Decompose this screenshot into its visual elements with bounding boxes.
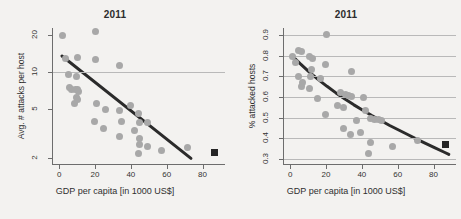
y-tick-label: 0.7	[261, 64, 270, 88]
scatter-point	[348, 93, 355, 100]
y-tick-mark	[279, 76, 283, 77]
x-tick-label: 60	[155, 170, 179, 179]
scatter-point	[184, 144, 191, 151]
x-tick-label: 60	[386, 170, 410, 179]
highlight-square-marker	[211, 149, 218, 156]
scatter-point	[323, 31, 330, 38]
panel-right-y-axis-label: % attacked hosts	[247, 64, 257, 129]
scatter-point	[322, 111, 329, 118]
x-tick-label: 40	[350, 170, 374, 179]
scatter-point	[314, 95, 321, 102]
x-tick-mark	[59, 165, 60, 169]
x-tick-mark	[398, 165, 399, 169]
y-tick-label: 20	[30, 23, 39, 47]
y-tick-label: 0.5	[261, 105, 270, 129]
scatter-point	[116, 107, 123, 114]
x-tick-mark	[362, 165, 363, 169]
y-tick-mark	[279, 138, 283, 139]
x-tick-mark	[167, 165, 168, 169]
y-tick-mark	[48, 109, 52, 110]
y-tick-label: 0.3	[261, 146, 270, 170]
scatter-point	[144, 143, 151, 150]
scatter-point	[348, 68, 355, 75]
gridline-horizontal	[284, 35, 456, 36]
y-tick-mark	[48, 35, 52, 36]
scatter-point	[292, 59, 299, 66]
scatter-point	[100, 125, 107, 132]
scatter-point	[71, 100, 78, 107]
chart-panel-right: 2011 % attacked hosts GDP per capita [in…	[231, 0, 461, 219]
x-tick-mark	[203, 165, 204, 169]
y-tick-label: 10	[30, 60, 39, 84]
panel-left-x-axis-label: GDP per capita [in 1000 US$]	[0, 186, 230, 196]
scatter-point	[322, 61, 329, 68]
y-tick-label: 0.8	[261, 43, 270, 67]
x-tick-label: 0	[47, 170, 71, 179]
gridline-horizontal	[284, 97, 456, 98]
panel-left-title: 2011	[0, 9, 230, 20]
scatter-point	[308, 66, 315, 73]
scatter-point	[116, 133, 123, 140]
scatter-point	[307, 73, 314, 80]
panel-left-y-axis-label: Avg. # attacks per host	[16, 53, 26, 139]
scatter-point	[362, 107, 369, 114]
x-tick-label: 80	[422, 170, 446, 179]
scatter-point	[62, 55, 69, 62]
scatter-point	[365, 150, 372, 157]
scatter-point	[136, 119, 143, 126]
gridline-horizontal	[284, 159, 456, 160]
x-tick-label: 20	[314, 170, 338, 179]
scatter-point	[93, 100, 100, 107]
scatter-point	[347, 131, 354, 138]
y-tick-mark	[279, 97, 283, 98]
scatter-point	[357, 129, 364, 136]
highlight-square-marker	[442, 141, 449, 148]
y-tick-label: 5	[30, 97, 39, 121]
scatter-point	[306, 85, 313, 92]
scatter-point	[135, 110, 142, 117]
scatter-point	[116, 62, 123, 69]
scatter-point	[131, 127, 138, 134]
panel-right-x-axis-label: GDP per capita [in 1000 US$]	[231, 186, 461, 196]
y-tick-mark	[279, 35, 283, 36]
scatter-point	[298, 83, 305, 90]
x-tick-mark	[131, 165, 132, 169]
x-tick-label: 40	[119, 170, 143, 179]
y-tick-mark	[279, 159, 283, 160]
y-tick-mark	[279, 56, 283, 57]
y-tick-label: 0.9	[261, 23, 270, 47]
x-tick-mark	[326, 165, 327, 169]
y-tick-mark	[48, 158, 52, 159]
x-tick-mark	[434, 165, 435, 169]
scatter-point	[65, 71, 72, 78]
y-tick-label: 0.6	[261, 85, 270, 109]
x-tick-label: 80	[191, 170, 215, 179]
panel-right-plot-area	[283, 28, 456, 165]
y-tick-label: 2	[30, 146, 39, 170]
scatter-point	[118, 118, 125, 125]
figure-canvas: 2011 Avg. # attacks per host GDP per cap…	[0, 0, 461, 219]
y-tick-mark	[279, 118, 283, 119]
panel-left-plot-area	[52, 28, 225, 165]
scatter-point	[92, 28, 99, 35]
x-tick-mark	[95, 165, 96, 169]
scatter-point	[91, 118, 98, 125]
panel-right-title: 2011	[231, 9, 461, 20]
scatter-point	[135, 150, 142, 157]
x-tick-mark	[290, 165, 291, 169]
chart-panel-left: 2011 Avg. # attacks per host GDP per cap…	[0, 0, 230, 219]
y-tick-mark	[48, 72, 52, 73]
scatter-point	[92, 56, 99, 63]
scatter-point	[74, 54, 81, 61]
scatter-point	[378, 117, 385, 124]
scatter-point	[389, 143, 396, 150]
x-tick-label: 20	[83, 170, 107, 179]
scatter-point	[353, 117, 360, 124]
scatter-point	[298, 48, 305, 55]
scatter-point	[340, 104, 347, 111]
x-tick-label: 0	[278, 170, 302, 179]
scatter-point	[317, 75, 324, 82]
